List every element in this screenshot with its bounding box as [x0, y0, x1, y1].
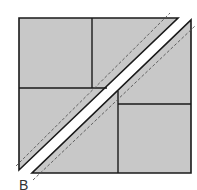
- quilt-diagram: [0, 0, 197, 190]
- figure-label: B: [19, 178, 28, 190]
